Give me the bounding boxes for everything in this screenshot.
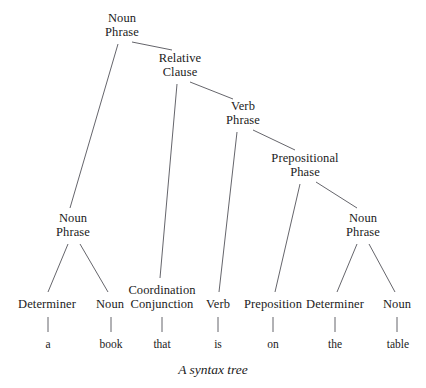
tree-node-label-line2: Phrase	[56, 226, 90, 240]
tree-edges-layer	[0, 0, 426, 388]
tree-node-label-line2: Phase	[271, 166, 338, 180]
tree-edge	[275, 184, 300, 292]
tree-edge	[80, 244, 108, 292]
tree-node-label-line1: Determiner	[306, 297, 364, 311]
tree-edge	[48, 244, 68, 292]
tree-node-verb: Verb	[206, 298, 230, 312]
tree-node-label-line1: Verb	[206, 297, 230, 311]
tree-word-word-is: is	[214, 338, 222, 350]
tree-node-label-line1: Noun	[96, 297, 124, 311]
tree-node-noun-1: Noun	[96, 298, 124, 312]
tree-word-word-on: on	[267, 338, 279, 350]
tree-node-vp: VerbPhrase	[226, 100, 260, 127]
tree-node-np-left: NounPhrase	[56, 212, 90, 239]
tree-node-label-line2: Conjunction	[128, 298, 195, 312]
tree-node-rel-clause: RelativeClause	[159, 52, 201, 79]
figure-caption: A syntax tree	[0, 362, 426, 378]
tree-node-label-line2: Clause	[159, 66, 201, 80]
tree-edge	[160, 84, 177, 278]
tree-node-np-right: NounPhrase	[346, 212, 380, 239]
tree-edge	[190, 82, 233, 99]
tree-edge	[219, 132, 237, 292]
tree-word-word-book: book	[100, 338, 123, 350]
tree-node-label-line1: Noun	[383, 297, 411, 311]
tree-edge	[70, 44, 118, 208]
tree-node-np-root: NounPhrase	[105, 12, 139, 39]
tree-node-label-line1: Preposition	[244, 297, 302, 311]
tree-edge	[253, 130, 295, 150]
tree-word-word-the: the	[328, 338, 342, 350]
tree-node-label-line1: Noun	[349, 211, 377, 225]
tree-node-label-line1: Verb	[231, 99, 255, 113]
tree-node-label-line1: Relative	[159, 51, 201, 65]
tree-node-prep: Preposition	[244, 298, 302, 312]
tree-node-det-1: Determiner	[18, 298, 76, 312]
syntax-tree-figure: NounPhraseRelativeClauseVerbPhrasePrepos…	[0, 0, 426, 388]
tree-node-label-line1: Coordination	[128, 283, 195, 297]
tree-node-pp: PrepositionalPhase	[271, 152, 338, 179]
tree-node-label-line2: Phrase	[105, 26, 139, 40]
tree-word-word-that: that	[153, 338, 170, 350]
tree-node-label-line2: Phrase	[226, 114, 260, 128]
tree-node-label-line2: Phrase	[346, 226, 380, 240]
tree-word-word-a: a	[45, 338, 50, 350]
edges-group	[48, 42, 397, 332]
tree-node-det-2: Determiner	[306, 298, 364, 312]
tree-node-conj: CoordinationConjunction	[128, 284, 195, 311]
tree-node-label-line1: Prepositional	[271, 151, 338, 165]
tree-node-label-line1: Determiner	[18, 297, 76, 311]
tree-word-word-table: table	[387, 338, 409, 350]
tree-node-noun-2: Noun	[383, 298, 411, 312]
tree-node-label-line1: Noun	[108, 11, 136, 25]
tree-node-label-line1: Noun	[59, 211, 87, 225]
tree-edge	[132, 42, 172, 50]
tree-edge	[337, 244, 357, 292]
tree-edge	[369, 244, 395, 292]
tree-edge	[316, 182, 357, 208]
